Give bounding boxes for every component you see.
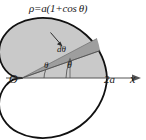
cardioid-lower-outline xyxy=(0,78,107,138)
origin-label: O xyxy=(9,73,18,85)
max-radius-label: 2a xyxy=(104,74,115,85)
equation-label: ρ=a(1+cos θ) xyxy=(29,3,87,14)
differential-angle-label: dθ xyxy=(57,45,66,54)
x-axis-label: x xyxy=(130,73,135,85)
cardioid-figure: ρ=a(1+cos θ) O 2a x θ θ dθ xyxy=(0,0,146,140)
angle-label-outer: θ xyxy=(67,60,72,70)
cardioid-diagram-svg xyxy=(0,0,146,140)
angle-label-inner: θ xyxy=(44,61,48,70)
